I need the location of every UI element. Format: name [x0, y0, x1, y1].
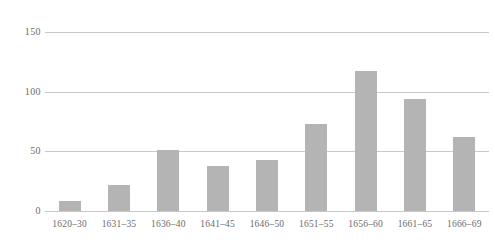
bar-chart: 050100150 1620–301631–351636–401641–4516…: [0, 0, 495, 244]
bar: [305, 124, 327, 211]
x-tick-label: 1641–45: [193, 218, 242, 230]
x-tick-label: 1656–60: [341, 218, 390, 230]
bar: [157, 150, 179, 211]
bar: [59, 201, 81, 211]
x-tick-label: 1631–35: [94, 218, 143, 230]
gridline-0: [45, 211, 489, 212]
plot-area: [45, 32, 489, 211]
x-tick-label: 1666–69: [440, 218, 489, 230]
bar: [108, 185, 130, 211]
x-tick-label: 1646–50: [242, 218, 291, 230]
x-tick-label: 1661–65: [390, 218, 439, 230]
bars: [45, 32, 489, 211]
bar: [355, 71, 377, 211]
bar: [256, 160, 278, 211]
x-axis: 1620–301631–351636–401641–451646–501651–…: [45, 218, 489, 238]
y-tick-label: 150: [7, 27, 41, 37]
y-tick-label: 100: [7, 87, 41, 97]
x-tick-label: 1636–40: [144, 218, 193, 230]
y-axis: 050100150: [0, 0, 41, 244]
x-tick-label: 1651–55: [292, 218, 341, 230]
bar: [453, 137, 475, 211]
bar: [207, 166, 229, 211]
x-tick-label: 1620–30: [45, 218, 94, 230]
bar: [404, 99, 426, 211]
y-tick-label: 0: [7, 206, 41, 216]
y-tick-label: 50: [7, 146, 41, 156]
